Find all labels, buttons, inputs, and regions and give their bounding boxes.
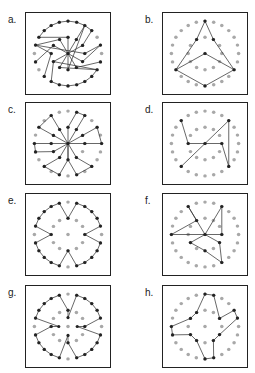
grid-dot — [203, 20, 206, 23]
grid-dot — [66, 174, 70, 177]
grid-dot — [50, 24, 53, 27]
grid-dot — [90, 302, 93, 305]
grid-dot — [180, 119, 183, 122]
grid-dot — [99, 225, 102, 228]
grid-dot — [99, 333, 102, 336]
figure-line — [51, 54, 97, 86]
grid-dot — [52, 150, 55, 153]
grid-dot — [170, 142, 174, 145]
grid-dot — [81, 241, 85, 244]
grid-dot — [179, 348, 183, 351]
grid-dot — [195, 202, 199, 205]
grid-dot — [33, 142, 36, 145]
dot-grid-figure — [163, 286, 247, 367]
grid-dot — [195, 38, 198, 41]
grid-dot — [170, 233, 173, 236]
grid-dot — [81, 134, 84, 137]
grid-dot — [37, 68, 41, 71]
grid-dot — [50, 297, 53, 300]
grid-dot — [50, 52, 53, 55]
grid-dot — [174, 68, 177, 71]
figure-line — [205, 206, 222, 234]
dot-grid-figure — [26, 194, 110, 275]
grid-dot — [203, 109, 207, 112]
grid-dot — [50, 325, 53, 328]
grid-dot — [174, 249, 178, 252]
grid-dot — [212, 173, 216, 176]
grid-dot — [179, 302, 183, 305]
figure-line — [44, 144, 68, 175]
grid-dot — [174, 158, 178, 161]
grid-dot — [83, 297, 86, 300]
figure-line — [68, 144, 92, 175]
grid-dot — [195, 173, 199, 176]
grid-dot — [236, 317, 239, 320]
grid-dot — [52, 317, 56, 320]
dot-figure-panel — [25, 193, 111, 276]
grid-dot — [220, 170, 224, 173]
grid-dot — [212, 83, 216, 86]
grid-dot — [58, 156, 61, 159]
grid-dot — [50, 142, 53, 145]
grid-dot — [195, 264, 199, 267]
grid-dot — [220, 80, 224, 83]
grid-dot — [52, 44, 55, 47]
grid-dot — [90, 210, 93, 213]
grid-dot — [52, 241, 56, 244]
grid-dot — [66, 217, 69, 220]
dot-grid-figure — [26, 103, 110, 184]
grid-dot — [232, 158, 236, 161]
grid-dot — [96, 126, 99, 129]
grid-dot — [171, 150, 175, 153]
grid-dot — [75, 264, 78, 267]
grid-dot — [33, 325, 37, 328]
grid-dot — [203, 142, 206, 145]
grid-dot — [203, 233, 206, 236]
grid-dot — [220, 205, 223, 208]
grid-dot — [96, 68, 99, 71]
grid-dot — [75, 111, 78, 114]
grid-dot — [186, 170, 190, 173]
grid-dot — [186, 325, 190, 328]
grid-dot — [34, 241, 37, 244]
grid-dot — [83, 233, 86, 236]
grid-dot — [83, 80, 86, 83]
grid-dot — [212, 38, 215, 41]
grid-dot — [66, 334, 69, 337]
grid-dot — [99, 241, 102, 244]
grid-dot — [186, 297, 190, 300]
grid-dot — [99, 150, 103, 153]
grid-dot — [179, 75, 183, 78]
grid-dot — [100, 233, 104, 236]
grid-dot — [212, 66, 216, 69]
grid-dot — [203, 293, 206, 296]
grid-dot — [43, 165, 46, 168]
grid-dot — [81, 60, 84, 63]
grid-dot — [58, 264, 61, 267]
grid-dot — [203, 265, 207, 268]
grid-dot — [90, 29, 93, 32]
panel-label: a. — [8, 14, 16, 25]
grid-dot — [99, 60, 102, 63]
dot-figure-panel — [25, 285, 111, 368]
grid-dot — [203, 126, 207, 129]
grid-dot — [237, 325, 241, 328]
grid-dot — [43, 302, 46, 305]
grid-dot — [171, 60, 175, 63]
grid-dot — [83, 52, 86, 55]
figure-line — [171, 206, 205, 234]
grid-dot — [37, 158, 41, 161]
grid-dot — [220, 353, 224, 356]
grid-dot — [66, 341, 69, 344]
panel-label: h. — [145, 287, 153, 298]
grid-dot — [66, 249, 69, 252]
grid-dot — [37, 36, 40, 39]
grid-dot — [58, 111, 62, 114]
grid-dot — [220, 325, 224, 328]
grid-dot — [75, 21, 78, 24]
grid-dot — [227, 165, 230, 168]
grid-dot — [232, 341, 236, 344]
grid-dot — [236, 60, 240, 63]
grid-dot — [37, 217, 40, 220]
grid-dot — [90, 256, 93, 259]
